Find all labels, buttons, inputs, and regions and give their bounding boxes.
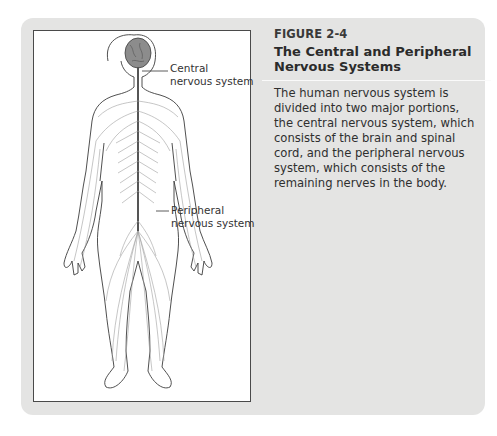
brain-icon xyxy=(125,38,151,68)
figure-caption-text: The human nervous system is divided into… xyxy=(274,86,479,191)
figure-title: The Central and Peripheral Nervous Syste… xyxy=(274,44,479,74)
central-nervous-system-label: Central nervous system xyxy=(170,62,254,87)
figure-caption: FIGURE 2-4 The Central and Peripheral Ne… xyxy=(274,27,479,191)
peripheral-nervous-system-label: Peripheral nervous system xyxy=(171,204,255,229)
figure-number: FIGURE 2-4 xyxy=(274,27,479,41)
caption-divider xyxy=(262,80,491,81)
